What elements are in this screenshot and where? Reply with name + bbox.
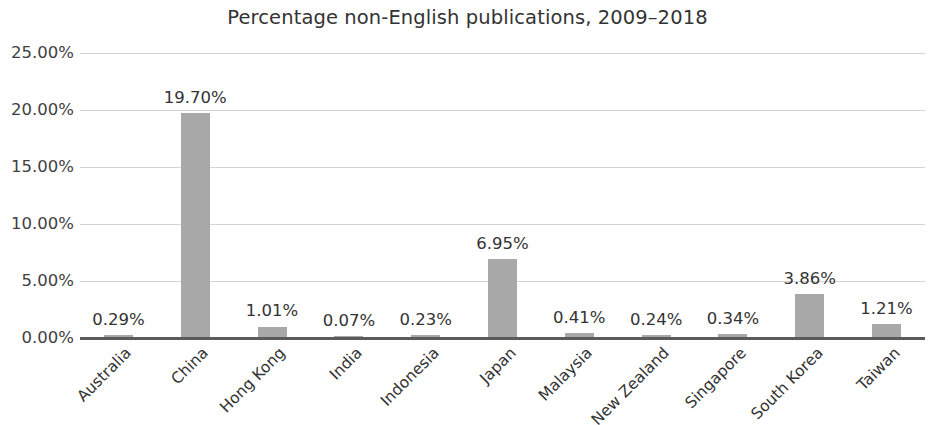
x-axis-tick-label: Australia xyxy=(35,344,135,425)
bar-chart: Percentage non-English publications, 200… xyxy=(0,0,935,425)
x-axis: AustraliaChinaHong KongIndiaIndonesiaJap… xyxy=(0,0,935,425)
